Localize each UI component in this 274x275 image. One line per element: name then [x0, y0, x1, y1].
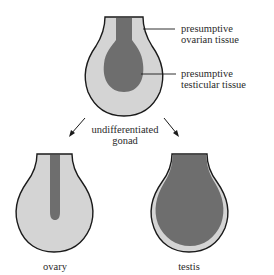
label-presumptive-testicular-tissue: presumptive testicular tissue: [181, 68, 246, 90]
label-presumptive-ovarian-tissue: presumptive ovarian tissue: [181, 23, 239, 45]
label-line: ovarian tissue: [181, 34, 239, 45]
label-line: presumptive: [181, 68, 246, 79]
label-line: testicular tissue: [181, 79, 246, 90]
testis-gonad: [151, 154, 228, 252]
label-line: presumptive: [181, 23, 239, 34]
label-line: undifferentiated: [80, 124, 170, 135]
testis-testicular-tissue: [156, 155, 224, 246]
undifferentiated-gonad: [85, 17, 176, 116]
label-ovary: ovary: [30, 261, 80, 272]
label-line: gonad: [80, 135, 170, 146]
label-undifferentiated-gonad: undifferentiated gonad: [80, 124, 170, 146]
ovary-testicular-remnant: [50, 155, 60, 220]
ovary-gonad: [16, 154, 93, 252]
label-testis: testis: [164, 261, 214, 272]
